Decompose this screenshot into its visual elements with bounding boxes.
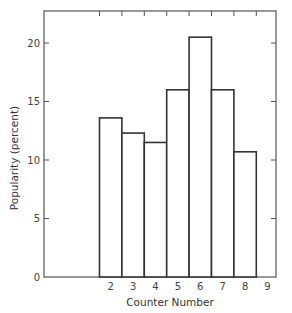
y-tick-label: 10: [27, 155, 40, 166]
y-axis-title: Popularity (percent): [8, 106, 20, 210]
bar-counter-2: [100, 118, 122, 277]
x-tick-label: 9: [264, 281, 270, 292]
bar-counter-4: [144, 142, 166, 277]
bar-counter-8: [234, 152, 256, 277]
bars: [100, 37, 257, 277]
x-tick-label: 4: [152, 281, 158, 292]
bar-counter-6: [189, 37, 211, 277]
y-tick-label: 20: [27, 38, 40, 49]
x-tick-label: 2: [108, 281, 114, 292]
x-tick-label: 7: [220, 281, 226, 292]
x-tick-label: 5: [175, 281, 181, 292]
y-tick-label: 5: [34, 213, 40, 224]
bar-counter-7: [212, 90, 234, 277]
bar-counter-3: [122, 133, 144, 277]
histogram-chart: 05101520 23456789 Counter Number Popular…: [0, 0, 292, 313]
y-tick-label: 0: [34, 272, 40, 283]
x-tick-label: 6: [197, 281, 203, 292]
bar-counter-5: [167, 90, 189, 277]
x-tick-label: 8: [242, 281, 248, 292]
x-axis-title: Counter Number: [126, 296, 214, 308]
y-tick-label: 15: [27, 96, 40, 107]
x-tick-label: 3: [130, 281, 136, 292]
